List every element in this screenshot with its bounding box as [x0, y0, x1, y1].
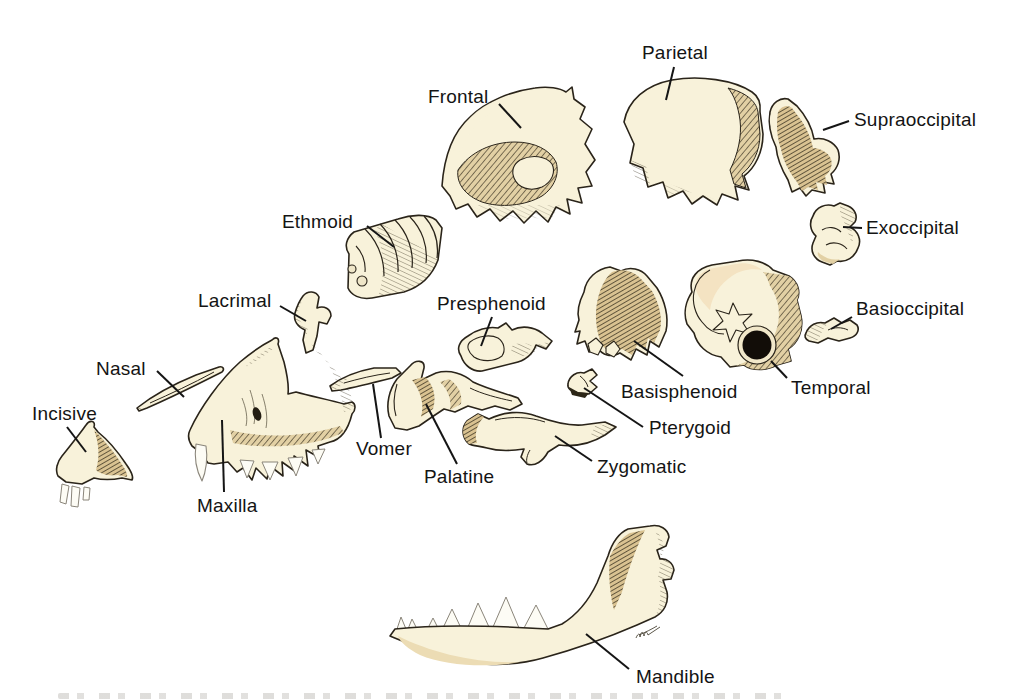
bone-exoccipital: [811, 203, 860, 265]
label-lacrimal: Lacrimal: [198, 290, 271, 312]
label-zygomatic: Zygomatic: [597, 456, 686, 478]
label-presphenoid: Presphenoid: [437, 293, 546, 315]
artist-signature: [636, 626, 660, 638]
figure-canvas: Frontal Parietal Supraoccipital Exoccipi…: [0, 0, 1020, 699]
label-mandible: Mandible: [636, 666, 715, 688]
label-parietal: Parietal: [642, 42, 708, 64]
label-frontal: Frontal: [428, 86, 489, 108]
cropped-caption-strip: [58, 693, 788, 699]
label-basioccipital: Basioccipital: [856, 298, 964, 320]
leader-line-vomer: [373, 384, 381, 438]
bone-ethmoid: [346, 215, 442, 298]
bone-incisive: [57, 421, 133, 507]
bone-basisphenoid: [575, 267, 667, 360]
label-vomer: Vomer: [356, 438, 412, 460]
bone-mandible: [390, 526, 674, 666]
label-incisive: Incisive: [32, 403, 97, 425]
leader-line-palatine: [426, 404, 457, 464]
bone-temporal: [685, 260, 802, 369]
leader-line-mandible: [586, 634, 629, 669]
label-basisphenoid: Basisphenoid: [621, 381, 737, 403]
leader-line-supraoccipital: [823, 121, 849, 130]
bone-parietal: [624, 78, 763, 205]
bone-zygomatic: [463, 412, 616, 464]
label-pterygoid: Pterygoid: [649, 417, 731, 439]
skull-bones-illustration: [0, 0, 1020, 699]
label-supraoccipital: Supraoccipital: [854, 109, 976, 131]
bone-basioccipital: [805, 318, 858, 343]
label-maxilla: Maxilla: [197, 495, 258, 517]
bone-supraoccipital: [769, 99, 839, 196]
label-nasal: Nasal: [96, 358, 146, 380]
label-ethmoid: Ethmoid: [282, 211, 353, 233]
bone-lacrimal: [295, 292, 331, 353]
label-palatine: Palatine: [424, 466, 494, 488]
leader-line-exoccipital: [843, 227, 862, 228]
bone-presphenoid: [459, 323, 552, 371]
label-temporal: Temporal: [791, 377, 871, 399]
bone-maxilla: [189, 338, 355, 481]
bone-vomer: [330, 368, 401, 391]
label-exoccipital: Exoccipital: [866, 217, 959, 239]
